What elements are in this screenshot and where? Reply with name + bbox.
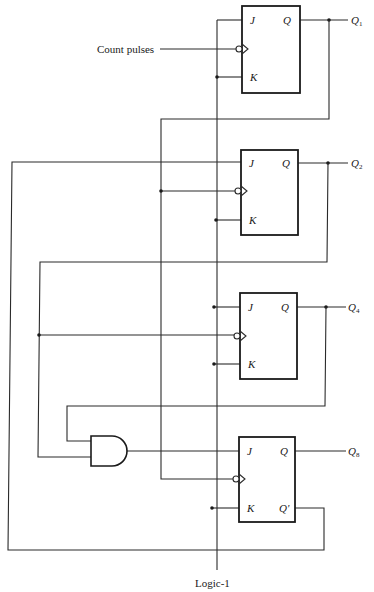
logic-1-label: Logic-1 xyxy=(195,577,230,589)
k1-node xyxy=(215,75,219,79)
q2-output-label: Q2 xyxy=(351,157,363,171)
ff4-qbar-pin: Q' xyxy=(279,502,290,514)
flip-flop-4: J K Q Q' xyxy=(233,437,295,522)
ff2-k-pin: K xyxy=(248,214,257,226)
q8-output-label: Q8 xyxy=(348,445,360,459)
count-pulses-label: Count pulses xyxy=(97,43,154,55)
clk2-node xyxy=(159,189,163,193)
k4-node xyxy=(210,506,214,510)
flip-flop-2: J K Q xyxy=(235,150,298,235)
k3-node xyxy=(212,362,216,366)
ff3-k-pin: K xyxy=(247,358,256,370)
and-gate xyxy=(91,436,127,466)
ff1-q-pin: Q xyxy=(283,14,291,26)
flip-flop-1: J K Q xyxy=(236,6,300,93)
k2-node xyxy=(214,218,218,222)
ff4-k-pin: K xyxy=(246,502,255,514)
clk3-node xyxy=(37,333,41,337)
flip-flop-3: J K Q xyxy=(234,293,297,379)
ff3-q-pin: Q xyxy=(281,301,289,313)
counter-schematic: J K Q J K Q J K Q J K Q Q' Count pulses … xyxy=(0,0,374,592)
q1-output-label: Q1 xyxy=(351,14,363,28)
ff2-q-pin: Q xyxy=(282,157,290,169)
j3-node xyxy=(212,305,216,309)
ff1-k-pin: K xyxy=(249,71,258,83)
ff4-q-pin: Q xyxy=(280,445,288,457)
q4-output-label: Q4 xyxy=(348,301,360,315)
